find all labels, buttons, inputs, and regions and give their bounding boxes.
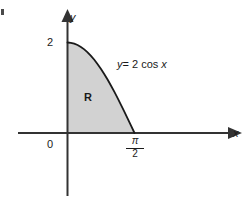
x-tick-label-pi-over-2: π 2 — [126, 136, 144, 159]
y-axis-label: y — [70, 12, 76, 23]
curve-equation-label: y= 2 cos x — [117, 59, 167, 70]
x-axis-label: x — [233, 128, 239, 139]
y-tick-label-2: 2 — [47, 37, 53, 48]
pi-denominator: 2 — [126, 148, 144, 160]
pi-numerator: π — [126, 136, 144, 147]
equation-operator: = 2 cos — [123, 58, 159, 70]
equation-variable: x — [161, 58, 167, 70]
shaded-region-R — [68, 43, 135, 134]
region-label-R: R — [84, 92, 92, 103]
origin-label: 0 — [47, 139, 53, 150]
plot-svg — [0, 0, 251, 200]
figure-container: y x 2 0 π 2 R y= 2 cos x — [0, 0, 251, 200]
